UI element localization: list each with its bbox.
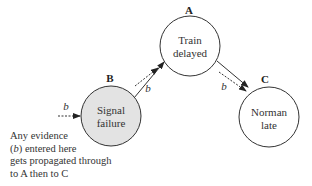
evidence-label-a-c: b (221, 80, 227, 92)
note-line-4: to A then to C (10, 168, 160, 181)
evidence-note: Any evidence (b) entered here gets propa… (10, 130, 160, 180)
node-b-label-line1: Signal (97, 104, 125, 116)
node-b-letter: B (106, 72, 114, 84)
node-a-label-line2: delayed (173, 47, 208, 59)
note-line-3: gets propagated through (10, 155, 160, 168)
note-line-1: Any evidence (10, 130, 160, 143)
node-c-label-line1: Norman (251, 106, 288, 118)
node-c-label-line2: late (261, 119, 277, 131)
evidence-label-input: b (63, 100, 69, 112)
node-a-letter: A (185, 4, 193, 16)
note-line-2-rest: entered here (22, 143, 76, 154)
node-c-letter: C (261, 73, 269, 85)
node-a: A Train delayed (160, 4, 220, 76)
note-evidence-symbol: b (14, 143, 19, 154)
evidence-label-b-a: b (145, 82, 151, 94)
note-line-2: (b) entered here (10, 143, 160, 156)
node-c: C Norman late (239, 73, 299, 147)
node-b-label-line2: failure (97, 117, 126, 129)
node-a-label-line1: Train (178, 34, 202, 46)
